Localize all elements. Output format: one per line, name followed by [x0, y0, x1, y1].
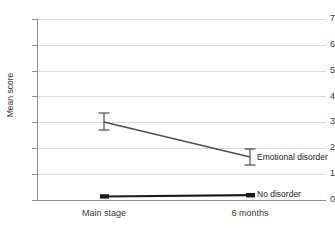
no-disorder-marker-main-stage [100, 194, 109, 198]
no-disorder-line [104, 195, 250, 196]
x-tick-label-6-months: 6 months [210, 208, 290, 218]
x-tick-label-main-stage: Main stage [64, 208, 144, 218]
no-disorder-marker-6-months [246, 193, 255, 197]
emotional-disorder-line [104, 122, 250, 157]
chart-container: 7 6 5 4 3 2 1 0 Mean score Emotional dis… [0, 0, 335, 231]
series-label-emotional-disorder: Emotional disorder [257, 152, 328, 162]
series-label-no-disorder: No disorder [257, 189, 301, 199]
error-bar-emotional-main-stage [99, 113, 110, 130]
error-bar-emotional-6-months [245, 149, 256, 165]
